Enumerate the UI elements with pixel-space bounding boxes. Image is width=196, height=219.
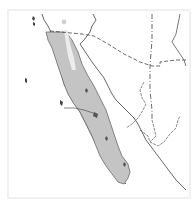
occurrence-dot: [62, 20, 67, 25]
distribution-map: [0, 0, 196, 219]
map-canvas: [0, 0, 196, 219]
